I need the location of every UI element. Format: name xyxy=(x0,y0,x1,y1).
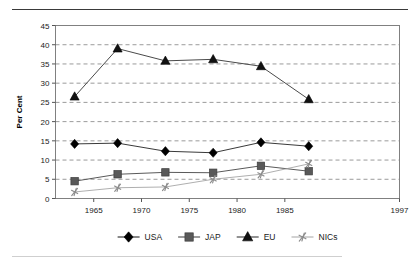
series-jap xyxy=(71,162,313,185)
series-eu xyxy=(70,44,313,103)
data-point xyxy=(304,95,313,103)
y-axis-ticks: 051015202530354045 xyxy=(41,22,56,204)
y-tick-label: 25 xyxy=(41,98,50,107)
x-tick-label: 1970 xyxy=(133,206,151,215)
x-tick-label: 1980 xyxy=(228,206,246,215)
data-series xyxy=(70,44,313,196)
y-axis-title: Per Cent xyxy=(15,95,24,128)
data-point xyxy=(257,162,264,169)
data-point xyxy=(306,160,312,167)
x-tick-label: 1985 xyxy=(276,206,294,215)
data-point xyxy=(209,148,217,157)
legend-marker-triangle xyxy=(243,232,253,241)
legend-label: USA xyxy=(145,232,163,242)
x-tick-label: 1997 xyxy=(391,206,409,215)
legend-label: JAP xyxy=(205,232,221,242)
y-tick-label: 5 xyxy=(45,175,50,184)
line-chart: 051015202530354045 196519701975198019851… xyxy=(0,0,420,267)
data-point xyxy=(257,138,265,147)
data-point xyxy=(162,169,169,176)
legend-item-eu[interactable]: EU xyxy=(237,232,276,243)
data-point xyxy=(305,168,312,175)
legend-item-usa[interactable]: USA xyxy=(118,232,163,242)
y-axis-label: Per Cent xyxy=(15,95,24,128)
gridlines xyxy=(56,26,400,180)
legend-marker-square xyxy=(185,233,193,241)
data-point xyxy=(209,55,218,63)
data-point xyxy=(305,142,313,151)
legend-item-jap[interactable]: JAP xyxy=(178,232,221,242)
y-tick-label: 45 xyxy=(41,22,50,31)
legend-label: EU xyxy=(264,232,276,242)
legend-label: NICs xyxy=(319,232,338,242)
chart-legend: USAJAPEUNICs xyxy=(118,232,338,243)
y-tick-label: 40 xyxy=(41,41,50,50)
legend-marker-diamond xyxy=(124,232,133,242)
figure-container: 051015202530354045 196519701975198019851… xyxy=(0,0,420,267)
y-tick-label: 20 xyxy=(41,118,50,127)
series-nics xyxy=(72,160,312,195)
data-point xyxy=(71,178,78,185)
x-axis-ticks: 196519701975198019851997 xyxy=(85,199,409,215)
data-point xyxy=(161,147,169,156)
plot-frame xyxy=(56,26,400,199)
y-tick-label: 30 xyxy=(41,79,50,88)
y-tick-label: 15 xyxy=(41,137,50,146)
data-point xyxy=(114,139,122,148)
y-tick-label: 35 xyxy=(41,60,50,69)
x-tick-label: 1965 xyxy=(85,206,103,215)
y-tick-label: 0 xyxy=(45,195,50,204)
x-tick-label: 1975 xyxy=(180,206,198,215)
data-point xyxy=(114,171,121,178)
y-tick-label: 10 xyxy=(41,156,50,165)
legend-item-nics[interactable]: NICs xyxy=(292,232,338,242)
